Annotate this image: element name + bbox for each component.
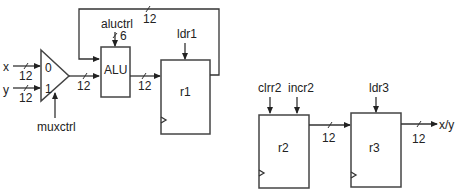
- svg-text:12: 12: [19, 69, 33, 83]
- svg-text:muxctrl: muxctrl: [37, 120, 76, 134]
- alu-to-r1-bus: 12: [130, 73, 160, 93]
- svg-text:ldr1: ldr1: [177, 27, 197, 41]
- register-r2: r2: [259, 115, 309, 188]
- svg-text:clrr2: clrr2: [258, 81, 282, 95]
- svg-text:12: 12: [19, 91, 33, 105]
- r2-increment: incr2: [288, 81, 314, 113]
- svg-text:r2: r2: [278, 141, 289, 155]
- register-r1: r1: [161, 60, 210, 134]
- svg-text:x/y: x/y: [439, 118, 454, 132]
- alu-control: aluctrl 6: [101, 17, 133, 46]
- input-x: x 12: [3, 60, 40, 83]
- svg-text:12: 12: [143, 12, 157, 26]
- svg-text:12: 12: [322, 131, 336, 145]
- datapath-diagram: x 12 y 12 0 1 muxctrl 12 ALU aluctrl 6: [0, 0, 457, 190]
- r3-load: ldr3: [369, 81, 389, 112]
- svg-text:x: x: [3, 60, 9, 74]
- register-r3: r3: [351, 113, 401, 187]
- svg-text:6: 6: [120, 29, 127, 43]
- svg-text:ldr3: ldr3: [369, 81, 389, 95]
- svg-text:0: 0: [45, 61, 52, 75]
- svg-text:12: 12: [138, 79, 152, 93]
- svg-text:12: 12: [412, 132, 426, 146]
- svg-text:1: 1: [45, 82, 52, 96]
- svg-text:r3: r3: [369, 141, 380, 155]
- r2-to-r3-bus: 12: [309, 122, 350, 145]
- input-y: y 12: [3, 83, 40, 105]
- r1-load: ldr1: [177, 27, 197, 59]
- r2-clear: clrr2: [258, 81, 282, 113]
- svg-text:incr2: incr2: [288, 81, 314, 95]
- svg-text:ALU: ALU: [104, 63, 127, 77]
- svg-text:aluctrl: aluctrl: [101, 17, 133, 31]
- svg-text:y: y: [3, 83, 9, 97]
- svg-text:12: 12: [77, 79, 91, 93]
- r3-output-bus: 12 x/y: [401, 118, 454, 146]
- svg-text:r1: r1: [180, 85, 191, 99]
- alu: ALU: [101, 47, 130, 97]
- mux-to-alu-bus: 12: [69, 73, 99, 93]
